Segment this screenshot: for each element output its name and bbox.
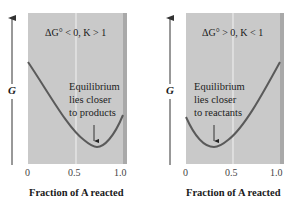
right-plot-edge bbox=[280, 13, 284, 164]
left-annotation-line-2: lies closer bbox=[69, 94, 111, 106]
left-plot-edge bbox=[123, 13, 127, 164]
left-y-axis-label: G bbox=[8, 85, 16, 96]
right-annotation-line-3: to reactants bbox=[194, 107, 242, 119]
right-y-axis-label: G bbox=[166, 85, 174, 96]
left-chart-panel: ΔG° < 0, K > 1 G Equilibrium lies closer… bbox=[0, 0, 148, 202]
left-x-tick-0-5: 0.5 bbox=[68, 167, 81, 178]
left-x-axis-label: Fraction of A reacted bbox=[29, 187, 124, 198]
left-annotation-line-3: to products bbox=[69, 107, 116, 119]
right-x-axis-label: Fraction of A reacted bbox=[186, 187, 281, 198]
right-chart-title: ΔG° > 0, K < 1 bbox=[202, 27, 263, 38]
left-x-tick-1-0: 1.0 bbox=[114, 167, 127, 178]
right-x-tick-0: 0 bbox=[183, 167, 188, 178]
right-chart-panel: ΔG° > 0, K < 1 G Equilibrium lies closer… bbox=[148, 0, 296, 202]
left-annotation-line-1: Equilibrium bbox=[69, 81, 120, 93]
right-x-tick-0-5: 0.5 bbox=[225, 167, 238, 178]
right-x-tick-1-0: 1.0 bbox=[270, 167, 283, 178]
right-annotation-line-2: lies closer bbox=[194, 94, 236, 106]
left-x-tick-0: 0 bbox=[25, 167, 30, 178]
right-annotation-line-1: Equilibrium bbox=[194, 81, 245, 93]
left-chart-title: ΔG° < 0, K > 1 bbox=[45, 27, 106, 38]
